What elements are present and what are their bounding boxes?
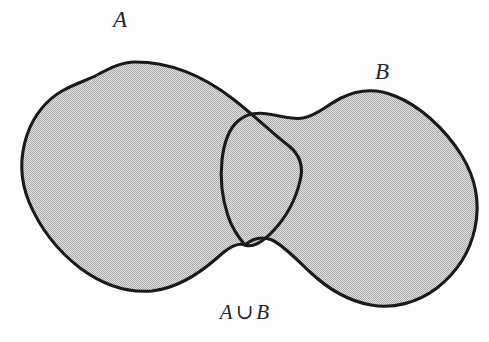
union-shaded-region [22, 62, 477, 306]
venn-diagram-figure: A B A∪B [0, 0, 489, 342]
caption-operand-b: B [256, 300, 269, 324]
caption-operand-a: A [220, 300, 233, 324]
venn-diagram-canvas [0, 0, 489, 342]
set-b-label: B [375, 60, 389, 83]
union-operator-icon: ∪ [233, 300, 257, 324]
set-a-label: A [113, 8, 127, 31]
union-caption: A∪B [0, 302, 489, 323]
